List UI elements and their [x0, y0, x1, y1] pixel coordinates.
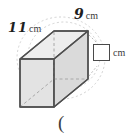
height-answer-input[interactable] [93, 44, 110, 61]
label-width: 9cm [74, 7, 98, 21]
label-depth-value: 11 [8, 20, 28, 35]
label-depth: 11cm [8, 21, 41, 34]
footer-paren: ( [58, 113, 64, 132]
label-width-unit: cm [86, 10, 98, 21]
prism-face-front [20, 59, 54, 107]
label-width-value: 9 [74, 6, 84, 22]
label-height-unit: cm [113, 47, 125, 58]
height-answer-group: cm [93, 44, 125, 61]
label-depth-unit: cm [29, 23, 41, 34]
worksheet-figure-page: 11cm 9cm cm ( [0, 0, 132, 136]
